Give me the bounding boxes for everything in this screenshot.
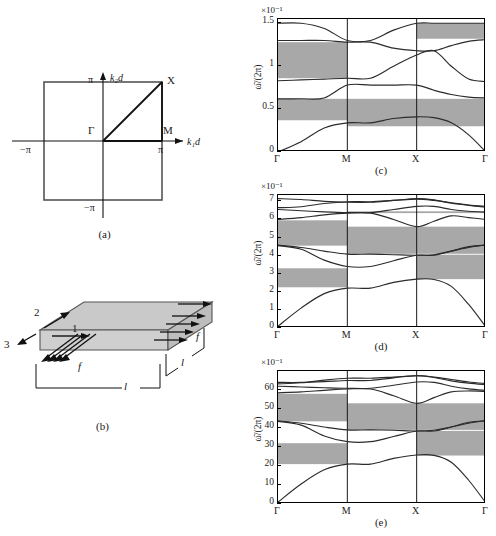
- y-tick-mark: [277, 22, 281, 23]
- y-tick-label: 10: [241, 477, 274, 487]
- panel-d-exponent: ×10⁻¹: [261, 181, 283, 191]
- y-tick-mark: [277, 465, 281, 466]
- panel-e-caption: (e): [277, 516, 485, 528]
- panel-e-exponent: ×10⁻¹: [261, 357, 283, 367]
- y-tick-mark: [277, 427, 281, 428]
- x-tick-label: M: [336, 329, 356, 340]
- y-tick-label: 6: [241, 211, 274, 221]
- panel-e-plot-area: [277, 370, 485, 503]
- panel-c-plot-area: [277, 18, 485, 151]
- band-gap-region: [278, 394, 347, 422]
- x-tick-label: Γ: [267, 329, 287, 340]
- panel-a-point-x: X: [167, 74, 175, 86]
- x-tick-label: Γ: [267, 505, 287, 516]
- y-tick-label: 1: [241, 58, 274, 68]
- panel-a-xtick-pi: π: [158, 144, 163, 155]
- y-tick-mark: [277, 108, 281, 109]
- panel-d-bands-svg: [278, 195, 485, 327]
- panel-c-exponent: ×10⁻¹: [261, 5, 283, 15]
- slab-force-label-front: f: [78, 360, 81, 372]
- x-tick-label: Γ: [475, 329, 495, 340]
- panel-a-ytick-neg-pi: −π: [84, 202, 95, 213]
- x-tick-label: Γ: [475, 153, 495, 164]
- panel-a-caption: (a): [0, 228, 227, 240]
- slab-diagram: [0, 272, 245, 462]
- y-tick-label: 60: [241, 382, 274, 392]
- band-gap-region: [417, 403, 485, 430]
- panel-a-yaxis-label: k₂d: [110, 72, 123, 83]
- band-gap-region: [347, 227, 416, 254]
- panel-d-caption: (d): [277, 340, 485, 352]
- y-tick-mark: [277, 389, 281, 390]
- panel-e-band-structure: ×10⁻¹ ω̄/(2π) 0102030405060 ΓMXΓ (e): [245, 354, 496, 532]
- y-tick-mark: [277, 65, 281, 66]
- y-tick-mark: [277, 408, 281, 409]
- y-tick-label: 30: [241, 439, 274, 449]
- band-gap-region: [417, 431, 485, 456]
- panel-b-caption: (b): [0, 420, 225, 432]
- dimension-bracket-bottom: [36, 364, 160, 388]
- y-tick-mark: [277, 291, 281, 292]
- path-gamma-to-x: [103, 82, 162, 141]
- panel-c-caption: (c): [277, 164, 485, 176]
- band-gap-region: [278, 99, 347, 120]
- panel-a-xtick-neg-pi: −π: [20, 144, 31, 155]
- slab-label-1: 1: [72, 322, 78, 334]
- x-tick-label: X: [406, 505, 426, 516]
- band-curve: [278, 382, 485, 391]
- panel-b-slab-schematic: 2 1 3 f f l l (b): [0, 272, 245, 462]
- band-gap-region: [278, 443, 347, 464]
- y-tick-label: 3: [241, 266, 274, 276]
- y-tick-mark: [277, 327, 281, 328]
- x-tick-label: M: [336, 153, 356, 164]
- y-tick-label: 4: [241, 248, 274, 258]
- y-tick-mark: [277, 273, 281, 274]
- kx-axis-arrow: [175, 138, 183, 144]
- panel-a-ytick-pi: π: [88, 74, 93, 85]
- x-tick-label: Γ: [475, 505, 495, 516]
- panel-e-bands-svg: [278, 371, 485, 503]
- y-tick-label: 1: [241, 302, 274, 312]
- band-gap-region: [347, 403, 416, 430]
- y-tick-label: 50: [241, 401, 274, 411]
- y-tick-mark: [277, 218, 281, 219]
- panel-c-band-structure: ×10⁻¹ ω̄/(2π) 00.511.5 ΓMXΓ (c): [245, 2, 496, 180]
- panel-a-brillouin-zone: k₂d k₁d π −π −π π Γ M X (a): [0, 56, 245, 266]
- band-gap-region: [347, 99, 416, 126]
- y-tick-mark: [277, 255, 281, 256]
- panel-a-xaxis-label: k₁d: [187, 136, 200, 147]
- y-tick-mark: [277, 151, 281, 152]
- band-curve: [278, 84, 485, 99]
- panel-c-bands-svg: [278, 19, 485, 151]
- y-tick-mark: [277, 309, 281, 310]
- band-gap-region: [278, 42, 347, 78]
- y-tick-label: 0.5: [241, 101, 274, 111]
- panel-c-ylabel: ω̄/(2π): [253, 47, 263, 107]
- slab-label-2: 2: [34, 306, 40, 318]
- y-tick-mark: [277, 237, 281, 238]
- axis3-arrow-head: [17, 338, 27, 345]
- slab-label-3: 3: [4, 338, 10, 350]
- figure-root: k₂d k₁d π −π −π π Γ M X (a): [0, 0, 496, 536]
- y-tick-label: 2: [241, 284, 274, 294]
- y-tick-label: 5: [241, 230, 274, 240]
- panel-d-plot-area: [277, 194, 485, 327]
- panel-d-band-structure: ×10⁻¹ ω̄/(2π) 01234567 ΓMXΓ (d): [245, 178, 496, 356]
- x-tick-label: X: [406, 153, 426, 164]
- x-tick-label: X: [406, 329, 426, 340]
- y-tick-mark: [277, 200, 281, 201]
- panel-a-point-m: M: [163, 124, 173, 136]
- band-gap-region: [417, 227, 485, 254]
- y-tick-mark: [277, 446, 281, 447]
- x-tick-label: M: [336, 505, 356, 516]
- y-tick-label: 1.5: [241, 15, 274, 25]
- panel-a-point-gamma: Γ: [88, 124, 94, 136]
- band-gap-region: [417, 23, 485, 38]
- ky-axis-arrow: [100, 72, 106, 80]
- slab-force-label-right: f: [196, 330, 199, 342]
- y-tick-label: 7: [241, 193, 274, 203]
- band-gap-region: [278, 268, 347, 287]
- y-tick-mark: [277, 503, 281, 504]
- band-gap-region: [278, 220, 347, 245]
- slab-length-label-bottom: l: [124, 380, 127, 392]
